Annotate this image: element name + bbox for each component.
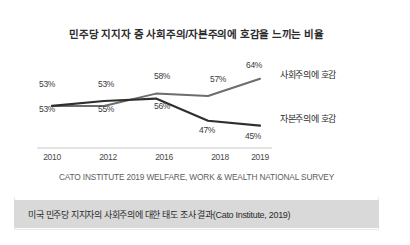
chart-panel: 민주당 지지자 중 사회주의/자본주의에 호감을 느끼는 비율 53% 53% … <box>14 12 379 197</box>
series-label-socialism: 사회주의에 호감 <box>280 68 336 81</box>
value-label-capitalism-2018: 47% <box>199 125 215 135</box>
tick-label-2019: 2019 <box>251 152 269 162</box>
caption-bar: 미국 민주당 지지자의 사회주의에 대한 태도 조사 결과(Cato Insti… <box>14 200 379 228</box>
screenshot-root: 민주당 지지자 중 사회주의/자본주의에 호감을 느끼는 비율 53% 53% … <box>0 0 410 245</box>
tick-label-2010: 2010 <box>43 152 61 162</box>
value-label-socialism-2018: 57% <box>210 74 226 84</box>
caption-text: 미국 민주당 지지자의 사회주의에 대한 태도 조사 결과(Cato Insti… <box>28 208 290 221</box>
series-label-capitalism: 자본주의에 호감 <box>280 112 336 125</box>
tick-label-2018: 2018 <box>211 152 229 162</box>
tick-label-2012: 2012 <box>99 152 117 162</box>
value-label-socialism-2019: 64% <box>246 60 262 70</box>
value-label-capitalism-2016: 56% <box>154 101 170 111</box>
plot-area: 53% 53% 58% 57% 64% 53% 55% 56% 47% 45% … <box>14 12 379 197</box>
value-label-socialism-2016: 58% <box>154 71 170 81</box>
value-label-socialism-2012: 53% <box>98 79 114 89</box>
value-label-capitalism-2010: 53% <box>39 104 55 114</box>
value-label-capitalism-2019: 45% <box>245 131 261 141</box>
source-note: CATO INSTITUTE 2019 WELFARE, WORK & WEAL… <box>14 172 379 182</box>
chart-lines-svg <box>14 12 379 197</box>
tick-label-2016: 2016 <box>155 152 173 162</box>
value-label-capitalism-2012: 55% <box>98 104 114 114</box>
value-label-socialism-2010: 53% <box>39 79 55 89</box>
